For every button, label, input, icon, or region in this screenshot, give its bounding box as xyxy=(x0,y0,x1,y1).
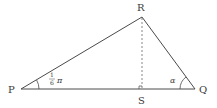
angle-p-numerator: 1 xyxy=(50,71,54,78)
angle-arc-q xyxy=(180,77,186,89)
angle-p-pi: π xyxy=(56,76,63,85)
angle-q-alpha: α xyxy=(170,76,176,85)
side-rq xyxy=(142,17,195,89)
angle-arc-p xyxy=(37,80,39,89)
side-pr xyxy=(21,17,142,89)
vertex-label-p: P xyxy=(8,84,15,95)
vertex-label-s: S xyxy=(138,95,145,106)
vertex-label-r: R xyxy=(137,2,145,13)
angle-p-denominator: 6 xyxy=(50,79,54,86)
vertex-label-q: Q xyxy=(199,84,207,95)
triangle-diagram: P Q R S 1 6 π α xyxy=(0,0,217,108)
